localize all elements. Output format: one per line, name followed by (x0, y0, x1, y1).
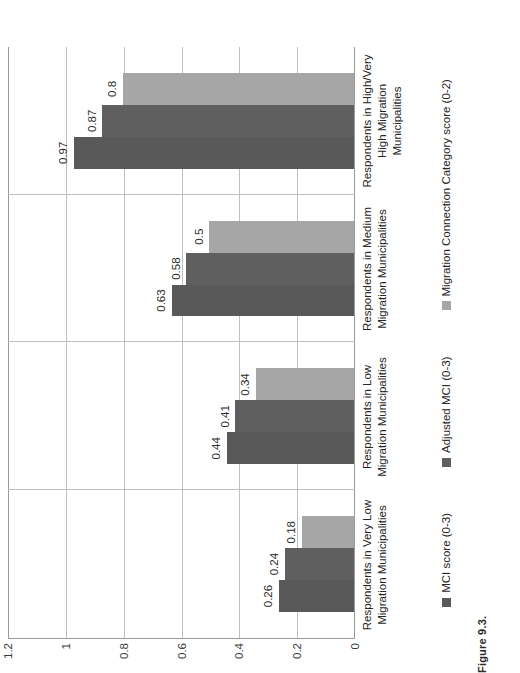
bar-value-label-1-0: 0.44 (211, 437, 223, 459)
legend-swatch-icon-0 (442, 598, 451, 607)
chart-plot-area: 00.20.40.60.811.2 0.260.240.180.440.410.… (8, 47, 398, 673)
bar-value-label-0-1: 0.24 (269, 553, 281, 575)
category-label-0: Respondents in Very Low Migration Munici… (360, 491, 405, 639)
bar-group-2: 0.630.580.5 (8, 195, 354, 343)
bar-value-label-1-1: 0.41 (220, 405, 232, 427)
legend-label-1: Adjusted MCI (0-3) (440, 356, 452, 453)
bar-slot-2-2: 0.5 (8, 221, 354, 253)
bar-2-1[interactable] (186, 253, 354, 285)
bar-group-1: 0.440.410.34 (8, 343, 354, 491)
bar-slot-2-0: 0.63 (8, 285, 354, 317)
bar-value-label-0-2: 0.18 (286, 521, 298, 543)
bar-3-1[interactable] (102, 105, 354, 137)
bar-1-2[interactable] (256, 368, 354, 400)
rotated-figure-canvas: 00.20.40.60.811.2 0.260.240.180.440.410.… (0, 0, 520, 673)
bar-0-2[interactable] (302, 516, 354, 548)
bar-slot-1-2: 0.34 (8, 368, 354, 400)
value-axis-tick-2: 0.4 (233, 643, 245, 659)
legend-item-0[interactable]: MCI score (0-3) (440, 513, 452, 607)
value-axis-tick-6: 1.2 (2, 643, 14, 659)
figure-caption: Figure 9.3. (476, 616, 488, 673)
bar-slot-1-1: 0.41 (8, 400, 354, 432)
value-axis-tick-5: 1 (60, 643, 72, 649)
bar-value-label-0-0: 0.26 (263, 585, 275, 607)
legend-swatch-icon-1 (442, 458, 451, 467)
bar-2-2[interactable] (209, 221, 354, 253)
value-axis-tick-4: 0.8 (118, 643, 130, 659)
bar-slot-0-0: 0.26 (8, 580, 354, 612)
bar-group-0: 0.260.240.18 (8, 490, 354, 638)
category-label-3: Respondents in High/Very High Migration … (360, 47, 405, 195)
bar-slot-0-2: 0.18 (8, 516, 354, 548)
bar-0-0[interactable] (279, 580, 354, 612)
category-axis-labels: Respondents in Very Low Migration Munici… (360, 47, 405, 639)
legend-label-2: Migration Connection Category score (0-2… (440, 79, 452, 296)
bar-3-2[interactable] (123, 73, 354, 105)
bar-2-0[interactable] (172, 285, 354, 317)
bar-value-label-3-0: 0.97 (58, 142, 70, 164)
bar-value-label-2-1: 0.58 (171, 257, 183, 279)
bar-1-0[interactable] (227, 432, 354, 464)
category-label-1: Respondents in Low Migration Municipalit… (360, 343, 405, 491)
bar-value-label-2-0: 0.63 (156, 289, 168, 311)
value-axis-tick-0: 0 (349, 643, 361, 649)
bar-slot-2-1: 0.58 (8, 253, 354, 285)
value-axis-tick-3: 0.6 (176, 643, 188, 659)
bar-value-label-2-2: 0.5 (194, 229, 206, 245)
value-axis-tick-1: 0.2 (291, 643, 303, 659)
bar-1-1[interactable] (235, 400, 354, 432)
legend-swatch-icon-2 (442, 301, 451, 310)
bar-group-3: 0.970.870.8 (8, 47, 354, 195)
bar-value-label-3-1: 0.87 (87, 110, 99, 132)
bar-slot-3-0: 0.97 (8, 137, 354, 169)
legend-item-2[interactable]: Migration Connection Category score (0-2… (440, 79, 452, 310)
value-axis-tick-labels: 00.20.40.60.811.2 (8, 639, 355, 673)
legend-item-1[interactable]: Adjusted MCI (0-3) (440, 356, 452, 467)
bar-slot-1-0: 0.44 (8, 432, 354, 464)
bar-3-0[interactable] (74, 137, 354, 169)
bar-0-1[interactable] (285, 548, 354, 580)
bar-groups: 0.260.240.180.440.410.340.630.580.50.970… (8, 47, 354, 638)
bar-slot-3-2: 0.8 (8, 73, 354, 105)
bar-value-label-3-2: 0.8 (107, 81, 119, 97)
figure-9-3: 00.20.40.60.811.2 0.260.240.180.440.410.… (0, 0, 520, 673)
bar-slot-3-1: 0.87 (8, 105, 354, 137)
plot-canvas: 0.260.240.180.440.410.340.630.580.50.970… (8, 47, 355, 639)
category-label-2: Respondents in Medium Migration Municipa… (360, 195, 405, 343)
bar-value-label-1-2: 0.34 (240, 373, 252, 395)
legend-label-0: MCI score (0-3) (440, 513, 452, 593)
chart-legend: MCI score (0-3)Adjusted MCI (0-3)Migrati… (440, 47, 452, 639)
bar-slot-0-1: 0.24 (8, 548, 354, 580)
